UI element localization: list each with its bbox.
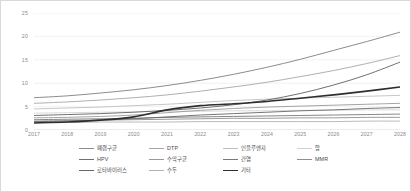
legend-item[interactable]: 암 bbox=[297, 146, 320, 151]
series-line-1 bbox=[34, 32, 400, 98]
y-axis-tick-label: 10 bbox=[22, 80, 28, 86]
y-axis: 0510152025 bbox=[1, 13, 32, 130]
legend-label: 폐렴구균 bbox=[97, 146, 117, 151]
x-axis-tick-label: 2021 bbox=[161, 131, 173, 137]
series-line-4 bbox=[34, 110, 400, 113]
legend-color-swatch bbox=[79, 159, 94, 160]
legend-color-swatch bbox=[149, 170, 164, 171]
legend-label: 수막구균 bbox=[167, 157, 187, 162]
legend-color-swatch bbox=[223, 159, 238, 160]
legend-label: 인플루엔자 bbox=[241, 146, 267, 151]
legend-color-swatch bbox=[297, 148, 312, 149]
legend-item[interactable]: 수막구균 bbox=[149, 157, 187, 162]
y-axis-tick-label: 25 bbox=[22, 10, 28, 16]
x-axis-tick-label: 2019 bbox=[95, 131, 107, 137]
legend-label: 수두 bbox=[167, 168, 177, 173]
legend-color-swatch bbox=[79, 170, 94, 171]
chart-container: 0510152025 20172018201920202021202220232… bbox=[0, 0, 411, 192]
legend-label: MMR bbox=[315, 157, 328, 162]
plot-area bbox=[34, 13, 400, 130]
legend-label: HPV bbox=[97, 157, 108, 162]
x-axis-tick-label: 2027 bbox=[361, 131, 373, 137]
legend-item[interactable]: 간염 bbox=[223, 157, 251, 162]
x-axis-tick-label: 2020 bbox=[128, 131, 140, 137]
x-axis-tick-label: 2017 bbox=[28, 131, 40, 137]
legend-item[interactable]: DTP bbox=[149, 146, 178, 151]
y-axis-tick-label: 15 bbox=[22, 57, 28, 63]
legend-label: 기타 bbox=[241, 168, 251, 173]
y-axis-tick-label: 5 bbox=[25, 104, 28, 110]
chart-legend: 폐렴구균DTP인플루엔자암HPV수막구균간염MMR로타바이러스수두기타 bbox=[1, 144, 411, 190]
legend-item[interactable]: 로타바이러스 bbox=[79, 168, 128, 173]
x-axis-tick-label: 2018 bbox=[61, 131, 73, 137]
legend-color-swatch bbox=[297, 159, 312, 160]
legend-color-swatch bbox=[149, 148, 164, 149]
legend-label: 간염 bbox=[241, 157, 251, 162]
line-chart-svg bbox=[34, 13, 400, 130]
x-axis-tick-label: 2023 bbox=[228, 131, 240, 137]
legend-color-swatch bbox=[223, 148, 238, 149]
legend-label: 로타바이러스 bbox=[97, 168, 128, 173]
legend-item[interactable]: 폐렴구균 bbox=[79, 146, 117, 151]
series-line-2 bbox=[34, 56, 400, 104]
x-axis-tick-label: 2028 bbox=[394, 131, 406, 137]
legend-color-swatch bbox=[79, 148, 94, 149]
legend-label: DTP bbox=[167, 146, 178, 151]
legend-color-swatch bbox=[149, 159, 164, 160]
legend-color-swatch bbox=[223, 170, 238, 171]
legend-item[interactable]: HPV bbox=[79, 157, 108, 162]
x-axis-tick-label: 2022 bbox=[194, 131, 206, 137]
x-axis-tick-label: 2025 bbox=[294, 131, 306, 137]
legend-item[interactable]: 인플루엔자 bbox=[223, 146, 267, 151]
x-axis-tick-label: 2024 bbox=[261, 131, 273, 137]
legend-label: 암 bbox=[315, 146, 320, 151]
legend-item[interactable]: 수두 bbox=[149, 168, 177, 173]
x-axis: 2017201820192020202120222023202420252026… bbox=[34, 131, 400, 141]
legend-item[interactable]: MMR bbox=[297, 157, 328, 162]
y-axis-tick-label: 20 bbox=[22, 33, 28, 39]
legend-item[interactable]: 기타 bbox=[223, 168, 251, 173]
x-axis-tick-label: 2026 bbox=[327, 131, 339, 137]
